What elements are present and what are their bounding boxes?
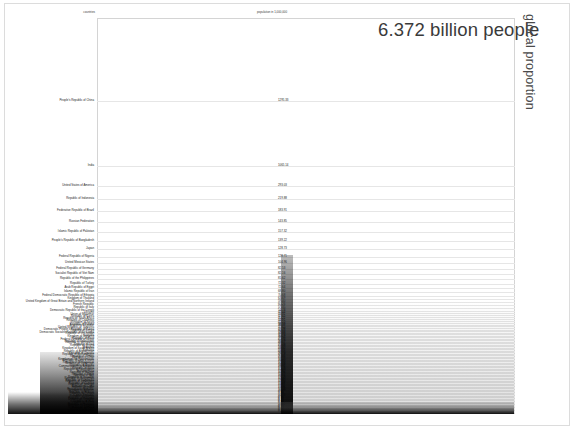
country-label: Republic of Zimbabwe: [65, 380, 94, 383]
country-label: Democratic Socialist Republic of Sri Lan…: [40, 331, 94, 334]
plot-area: [97, 18, 515, 414]
country-label: Democratic People's Republic of Korea: [44, 328, 94, 331]
country-label-ink-mass: [40, 352, 98, 414]
country-label: Republic of Malawi: [70, 371, 94, 374]
country-label: Republic of Chad: [72, 407, 94, 410]
country-label: Kingdom of Morocco: [67, 335, 94, 338]
country-label: Republic of Kazakhstan: [64, 368, 94, 371]
country-label: Federal Republic of Nigeria: [59, 255, 94, 258]
country-label: Republic of Yemen: [70, 355, 94, 358]
column-header-population: population in 1,000,000: [257, 10, 287, 14]
country-label: Republic of Belarus: [69, 391, 94, 394]
country-label: Republic of Venezuela: [65, 341, 94, 344]
country-label: United Republic of Tanzania: [58, 326, 94, 329]
country-label: Republic of Zambia: [69, 382, 94, 385]
country-label: Republic of Iraq: [74, 343, 94, 346]
country-label: Canada: [84, 334, 94, 337]
country-label: Republic of Cuba: [72, 385, 94, 388]
country-label: Democratic Republic of the Congo: [50, 309, 94, 312]
country-label: Dominican Republic: [68, 398, 94, 401]
country-label: Argentine Republic: [70, 324, 94, 327]
country-label: People's Republic of Bangladesh: [52, 239, 94, 242]
country-label-ink-mass-lower: [8, 392, 98, 414]
poster-page: countries population in 1,000,000 People…: [0, 0, 576, 430]
country-label: Republic of Uzbekistan: [64, 340, 94, 343]
country-label: Kingdom of Belgium: [68, 389, 94, 392]
country-label: Republic of Mali: [73, 374, 94, 377]
country-label: Federal Democratic Republic of Ethiopia: [42, 294, 94, 297]
country-label: Republic of Chile: [72, 356, 94, 359]
country-label: Portuguese Republic: [67, 388, 94, 391]
country-label: Republic of Cambodia: [66, 379, 94, 382]
country-label: Federal Republic of Nepal: [61, 338, 94, 341]
country-label: Japan: [86, 247, 94, 250]
country-label: Kingdom of Thailand: [68, 297, 94, 300]
country-label: French Republic: [73, 303, 94, 306]
country-label: Republic of Haiti: [73, 400, 94, 403]
country-label: Republic of Kenya: [71, 329, 94, 332]
country-label: Federal Republic of Germany: [56, 267, 94, 270]
country-label: Republic of the Sudan: [66, 332, 94, 335]
country-label: Czech Republic: [74, 394, 94, 397]
country-label: India: [88, 164, 94, 167]
country-label: Republic of Bolivia: [70, 401, 94, 404]
country-label: United Mexican States: [65, 261, 94, 264]
country-label: Romania: [82, 349, 94, 352]
country-label: Republic of Peru: [73, 337, 94, 340]
country-label: Republic of Ghana: [70, 344, 94, 347]
country-label: Republic of Hungary: [68, 403, 94, 406]
column-header-countries: countries: [83, 10, 95, 14]
country-label: Republic of South Africa: [63, 317, 94, 320]
country-label: Republic of Guinea: [69, 395, 94, 398]
side-caption-glocal-proportion: glocal proportion: [523, 14, 537, 144]
country-label: Republic of Somalia: [68, 406, 94, 409]
country-label: Republic of Ecuador: [68, 376, 94, 379]
country-label: Republic of Uganda: [69, 352, 94, 355]
country-label: Socialist Republic of Viet Nam: [55, 272, 94, 275]
country-label: Republic of the Philippines: [60, 277, 94, 280]
country-label: United Kingdom of Great Britain and Nort…: [26, 300, 94, 303]
headline-total-population: 6.372 billion people: [378, 19, 539, 41]
country-label: Republic of Indonesia: [66, 197, 94, 200]
country-label: Republic of Tunisia: [70, 392, 94, 395]
country-label: Islamic Republic of Iran: [64, 290, 94, 293]
country-label: Republic of Korea: [71, 315, 94, 318]
country-label: Islamic Republic of Pakistan: [58, 230, 94, 233]
country-label: Republic of Madagascar: [63, 361, 94, 364]
country-label: Russian Federation: [69, 220, 94, 223]
country-label: Republic of Austria: [70, 409, 94, 412]
country-label: Republic of Guatemala: [65, 377, 94, 380]
country-label: Republic of Angola: [70, 364, 94, 367]
country-label: Arab Republic of Egypt: [64, 286, 94, 289]
country-label: Kingdom of Spain: [71, 321, 94, 324]
country-label: Federative Republic of Brazil: [57, 209, 94, 212]
country-label: Republic of Senegal: [68, 383, 94, 386]
country-label: Republic of Afghanistan: [64, 350, 94, 353]
country-label: Ukraine: [84, 311, 94, 314]
country-label: Republic of Cameroon: [65, 362, 94, 365]
country-label: Republic of Syria: [72, 367, 94, 370]
country-label: Kingdom of the Netherlands: [58, 358, 94, 361]
country-label: Republic of Turkey: [70, 282, 94, 285]
country-label: Hellenic Republic: [72, 386, 94, 389]
country-label: Swiss Confederation: [67, 410, 94, 413]
country-label: Republic of Rwanda: [68, 397, 94, 400]
country-label: Republic of Colombia: [67, 319, 94, 322]
country-label: Malaysia: [83, 346, 94, 349]
country-label: Republic of Italy: [73, 306, 94, 309]
country-label: Republic of Niger: [72, 373, 94, 376]
country-label: Republic of Poland: [70, 323, 94, 326]
country-label: Union of Myanmar: [70, 313, 94, 316]
country-label: Burkina Faso: [77, 370, 94, 373]
country-label: Kingdom of Saudi Arabia: [62, 347, 94, 350]
country-label: Republic of Cote d'Ivoire: [63, 359, 94, 362]
country-label: Republic of Mozambique: [62, 353, 94, 356]
country-label: United States of America: [62, 184, 94, 187]
country-label: Kingdom of Sweden: [68, 404, 94, 407]
country-label: People's Republic of China: [59, 99, 94, 102]
country-label: Commonwealth of Australia: [59, 365, 94, 368]
